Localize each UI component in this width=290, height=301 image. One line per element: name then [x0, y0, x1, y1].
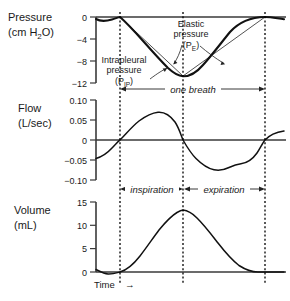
elastic-leader-arrowhead-left: [173, 60, 177, 64]
flow-curve: [96, 112, 284, 170]
flow-ytick-label-0: 0.10: [69, 96, 87, 106]
flow-axis-unit: (L/sec): [18, 117, 52, 129]
pressure-axis-unit: (cm H2O): [8, 26, 54, 41]
flow-ytick-label-2: 0: [82, 136, 87, 146]
expiration-arrowhead-left: [184, 187, 190, 192]
one-breath-bracket: one breath: [120, 83, 265, 95]
volume-axis-unit: (mL): [14, 219, 37, 231]
elastic-pressure-label: Elastic pressure (PE): [173, 19, 208, 52]
time-axis-arrow-icon: →: [125, 279, 135, 290]
event-marker-lines: [120, 12, 265, 283]
one-breath-arrowhead-right: [259, 87, 265, 92]
flow-axis-title: Flow: [18, 102, 41, 114]
pressure-unit-post: O): [42, 26, 54, 38]
figure-canvas: 0 −4 −8 −12 Pressure (cm H2O) Intr: [0, 0, 290, 301]
volume-ytick-label-2: 5: [82, 244, 87, 254]
expiration-label: expiration: [203, 184, 244, 195]
volume-panel: 15 10 5 0 Volume (mL): [14, 198, 286, 278]
flow-ytick-label-4: −0.10: [64, 176, 87, 186]
flow-ytick-label-1: 0.05: [69, 116, 87, 126]
elastic-label-line1: Elastic: [178, 19, 205, 29]
flow-panel: 0.10 0.05 0 −0.05 −0.10 Flow (L/sec): [18, 96, 286, 186]
elastic-label-line3: (PE): [183, 40, 199, 52]
volume-ytick-label-0: 15: [77, 198, 87, 208]
volume-axis-title: Volume: [14, 204, 51, 216]
pressure-panel: 0 −4 −8 −12 Pressure (cm H2O) Intr: [8, 11, 286, 89]
flow-ytick-label-3: −0.05: [64, 156, 87, 166]
expiration-arrowhead-right: [259, 187, 265, 192]
pressure-unit-pre: (cm H: [8, 26, 37, 38]
intrapleural-label-line3: (PIP): [115, 76, 133, 88]
pressure-axis-title: Pressure: [8, 11, 52, 23]
intrapleural-label-line2: pressure: [106, 65, 141, 75]
volume-curve: [96, 210, 284, 274]
phase-brackets: inspiration expiration: [120, 183, 265, 195]
volume-ytick-label-3: 0: [82, 268, 87, 278]
pressure-ytick-label-3: −12: [72, 79, 87, 89]
elastic-label-line2: pressure: [173, 29, 208, 39]
time-axis-label: Time: [94, 279, 115, 290]
pressure-ytick-label-2: −8: [77, 57, 87, 67]
intrapleural-pressure-label: Intrapleural pressure (PIP): [101, 55, 146, 88]
one-breath-label: one breath: [170, 84, 215, 95]
inspiration-label: inspiration: [130, 184, 173, 195]
pressure-ytick-label-1: −4: [77, 35, 87, 45]
svg-text:(cm H2O): (cm H2O): [8, 26, 54, 41]
respiratory-cycle-figure: 0 −4 −8 −12 Pressure (cm H2O) Intr: [0, 0, 290, 301]
time-axis-label-group: Time →: [94, 279, 135, 290]
pressure-ytick-label-0: 0: [82, 13, 87, 23]
intrapleural-label-line1: Intrapleural: [101, 55, 146, 65]
volume-ytick-label-1: 10: [77, 221, 87, 231]
